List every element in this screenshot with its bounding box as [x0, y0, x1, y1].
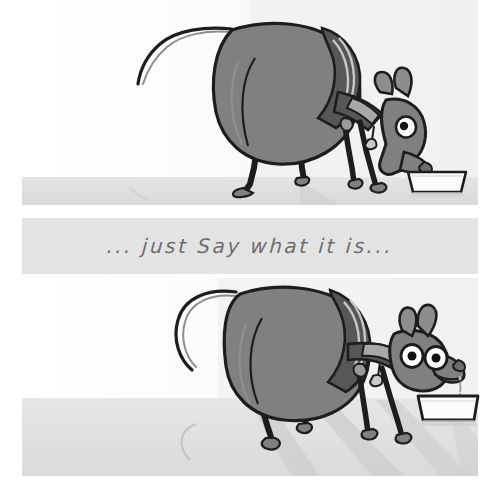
dog-front-knee-far [340, 118, 352, 131]
caption-text: ... just Say what it is... [22, 218, 478, 274]
food-bowl-bottom [418, 396, 478, 426]
food-bowl-top [408, 172, 466, 197]
bottom-panel-artwork [0, 278, 500, 488]
top-panel [0, 0, 500, 205]
dog-hind-paw-near [297, 423, 312, 433]
bottom-panel [0, 278, 500, 488]
bowl-shadow [419, 420, 478, 426]
dog-front-paw-near [396, 433, 412, 444]
dog-ear-back [375, 72, 393, 94]
dog-tag [365, 139, 377, 149]
dog-hind-paw-near [295, 177, 309, 186]
dog-pupil [400, 122, 408, 130]
dog-pupil-near [432, 354, 441, 363]
dog-front-paw-near [371, 183, 387, 193]
top-panel-artwork [0, 0, 500, 205]
dog-tag [370, 375, 382, 386]
dog-hind-paw-far [262, 438, 280, 450]
dog-front-knee-far [353, 364, 366, 377]
caption-panel: ... just Say what it is... [22, 218, 478, 274]
bowl-body [408, 172, 466, 192]
comic-strip: ... just Say what it is... [0, 0, 500, 488]
dog-pupil-far [408, 352, 417, 361]
dog-front-paw-far [362, 429, 378, 440]
dog-front-paw-far [348, 179, 362, 189]
bowl-shadow [410, 192, 466, 197]
bowl-body [418, 396, 478, 420]
